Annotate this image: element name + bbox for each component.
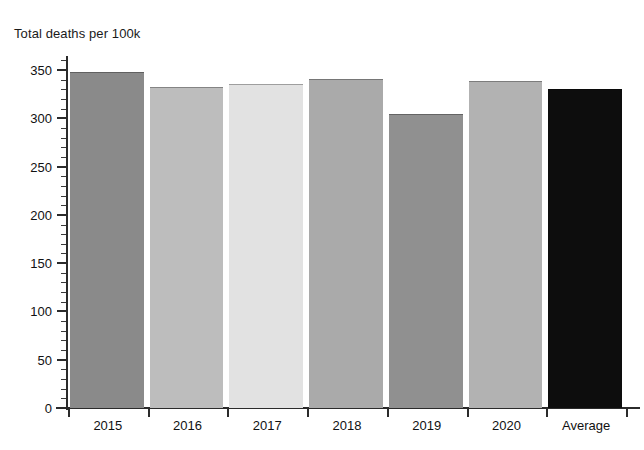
y-axis-minor-tick xyxy=(61,253,66,254)
y-axis-tick-label: 200 xyxy=(0,207,52,222)
y-axis-minor-tick xyxy=(61,109,66,110)
x-axis-tick xyxy=(626,409,628,417)
y-axis-minor-tick xyxy=(61,389,66,390)
y-axis-minor-tick xyxy=(61,99,66,100)
y-axis-minor-tick xyxy=(61,89,66,90)
y-axis-minor-tick xyxy=(61,157,66,158)
x-axis-category-label: 2015 xyxy=(93,418,122,433)
y-axis-minor-tick xyxy=(61,292,66,293)
bar-chart: Total deaths per 100k 050100150200250300… xyxy=(0,0,644,450)
x-axis-category-label: 2019 xyxy=(412,418,441,433)
x-axis-tick xyxy=(467,409,469,417)
x-axis-tick xyxy=(68,409,70,417)
y-axis-minor-tick xyxy=(61,80,66,81)
y-axis-tick-label: 250 xyxy=(0,159,52,174)
y-axis-tick xyxy=(57,359,66,361)
x-axis-category-label: 2020 xyxy=(492,418,521,433)
y-axis-tick-label: 150 xyxy=(0,256,52,271)
x-axis-tick xyxy=(307,409,309,417)
x-axis-tick xyxy=(148,409,150,417)
y-axis-minor-tick xyxy=(61,302,66,303)
y-axis-minor-tick xyxy=(61,379,66,380)
x-axis-tick xyxy=(387,409,389,417)
y-axis-minor-tick xyxy=(61,225,66,226)
y-axis-tick xyxy=(57,310,66,312)
y-axis-tick-label: 0 xyxy=(0,401,52,416)
y-axis-tick xyxy=(57,166,66,168)
x-axis-category-label: 2016 xyxy=(173,418,202,433)
chart-title: Total deaths per 100k xyxy=(14,26,140,41)
y-axis-tick-label: 100 xyxy=(0,304,52,319)
y-axis-minor-tick xyxy=(61,138,66,139)
y-axis-minor-tick xyxy=(61,282,66,283)
y-axis-tick-label: 350 xyxy=(0,63,52,78)
y-axis-tick xyxy=(57,117,66,119)
y-axis-minor-tick xyxy=(61,176,66,177)
y-axis-tick xyxy=(57,262,66,264)
bar xyxy=(229,84,303,408)
y-axis-minor-tick xyxy=(61,398,66,399)
y-axis-tick-label: 300 xyxy=(0,111,52,126)
y-axis-minor-tick xyxy=(61,321,66,322)
y-axis-tick xyxy=(57,214,66,216)
y-axis-minor-tick xyxy=(61,340,66,341)
y-axis-tick xyxy=(57,69,66,71)
bar xyxy=(150,87,224,408)
y-axis-minor-tick xyxy=(61,186,66,187)
x-axis-category-label: 2017 xyxy=(253,418,282,433)
y-axis-minor-tick xyxy=(61,60,66,61)
bar xyxy=(548,89,622,408)
y-axis-minor-tick xyxy=(61,196,66,197)
bar xyxy=(389,114,463,408)
y-axis-tick-label: 50 xyxy=(0,352,52,367)
plot-area xyxy=(67,58,627,408)
y-axis-minor-tick xyxy=(61,205,66,206)
bar xyxy=(469,81,543,408)
bar xyxy=(309,79,383,408)
y-axis-minor-tick xyxy=(61,350,66,351)
y-axis-tick xyxy=(57,407,66,409)
x-axis-category-label: 2018 xyxy=(333,418,362,433)
x-axis-tick xyxy=(227,409,229,417)
y-axis-minor-tick xyxy=(61,147,66,148)
y-axis-minor-tick xyxy=(61,273,66,274)
y-axis-minor-tick xyxy=(61,331,66,332)
y-axis-minor-tick xyxy=(61,128,66,129)
x-axis-category-label: Average xyxy=(562,418,610,433)
bar xyxy=(70,72,144,408)
y-axis-minor-tick xyxy=(61,234,66,235)
y-axis-minor-tick xyxy=(61,369,66,370)
y-axis-minor-tick xyxy=(61,244,66,245)
x-axis-tick xyxy=(546,409,548,417)
